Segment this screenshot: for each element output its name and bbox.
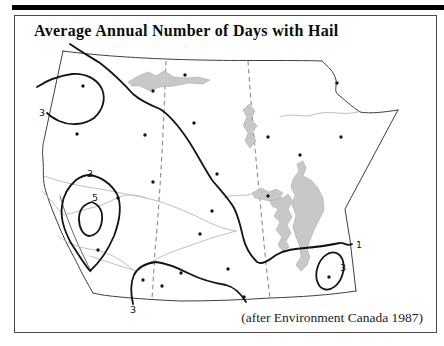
hudson-bay-coast (322, 61, 398, 113)
station-dot (116, 196, 119, 199)
western-border (43, 51, 93, 293)
station-dot (141, 278, 144, 281)
station-dot (215, 172, 218, 175)
station-dot (210, 209, 213, 212)
northern-border (63, 51, 322, 61)
station-dot (75, 132, 78, 135)
station-dot (198, 232, 201, 235)
lake-winnipegosis-manitoba (270, 194, 293, 251)
station-dot (183, 73, 186, 76)
station-dot (151, 180, 154, 183)
isoline-label-5: 5 (92, 192, 98, 203)
station-dot (160, 284, 163, 287)
lakes (128, 71, 324, 271)
isoline-label-3-southeast: 3 (340, 262, 346, 273)
station-dot (339, 135, 342, 138)
lake-winnipeg (291, 161, 324, 271)
station-dot (151, 89, 154, 92)
source-attribution: (after Environment Canada 1987) (241, 310, 423, 326)
station-dot (266, 194, 269, 197)
station-dot (143, 133, 146, 136)
reindeer-lake (243, 104, 257, 148)
station-dot (266, 135, 269, 138)
saskatchewan-river (224, 193, 256, 198)
station-dot (96, 248, 99, 251)
hail-map-figure: Average Annual Number of Days with Hail (0, 0, 444, 346)
isoline-label-3-southwest: 3 (87, 168, 93, 179)
isoline-label-1-east: 1 (356, 239, 362, 250)
station-dot (81, 84, 84, 87)
station-dot (298, 153, 301, 156)
station-dot (242, 295, 245, 298)
isoline-label-3-south: 3 (130, 304, 136, 315)
station-dot (179, 271, 182, 274)
churchill-river (280, 112, 358, 117)
isoline-3-northwest-loop (37, 74, 104, 124)
station-dot (327, 275, 330, 278)
lake-athabasca (128, 71, 210, 91)
prairie-provinces-map: 3 3 5 3 1 3 (0, 0, 444, 346)
station-dot (226, 267, 229, 270)
south-saskatchewan-river (90, 231, 236, 271)
isoline-5-inner-loop (79, 202, 102, 236)
isoline-label-3-northwest: 3 (39, 107, 45, 118)
eastern-border (345, 110, 398, 291)
station-dot (192, 121, 195, 124)
station-dot (335, 81, 338, 84)
